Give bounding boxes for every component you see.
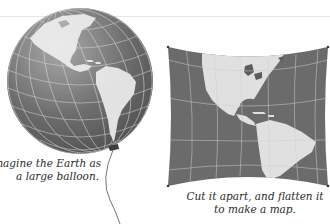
map-caption-line-2: to make a map. [180, 203, 330, 216]
balloon-caption-line-2: a large balloon. [0, 170, 99, 183]
balloon-string [106, 150, 120, 224]
map-caption-line-1: Cut it apart, and flatten it [180, 190, 330, 203]
flattened-map [167, 46, 330, 188]
balloon-caption-line-1: Imagine the Earth as [0, 157, 99, 170]
globe-balloon [0, 0, 171, 224]
balloon-caption: Imagine the Earth as a large balloon. [0, 157, 99, 183]
map-caption: Cut it apart, and flatten it to make a m… [180, 190, 330, 216]
